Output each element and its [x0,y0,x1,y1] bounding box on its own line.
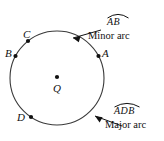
center-label-q: Q [53,83,61,94]
major-arc-caption: Major arc [105,119,146,130]
major-arc-name: ADB [114,106,135,116]
point-a-dot [96,54,100,58]
center-point-dot [55,75,59,79]
point-b-dot [13,54,17,58]
minor-arc-caption: Minor arc [88,30,130,41]
point-label-b: B [5,48,12,59]
arc-diagram-figure: A B C D Q AB Minor arc ADB Major arc [0,0,164,141]
point-label-c: C [23,29,30,40]
point-label-d: D [17,112,25,123]
point-label-a: A [102,48,109,59]
minor-arc-name: AB [107,17,120,27]
point-d-dot [29,115,33,119]
